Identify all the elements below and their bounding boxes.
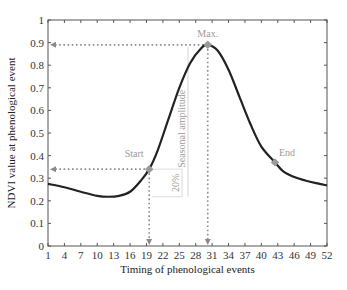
y-tick-label: 0.7 xyxy=(30,82,44,94)
x-tick-label: 34 xyxy=(223,249,235,261)
x-tick-label: 7 xyxy=(78,249,84,261)
arrow-down-icon xyxy=(146,239,152,245)
x-tick-label: 25 xyxy=(174,249,186,261)
x-axis-title: Timing of phenological events xyxy=(120,263,254,275)
y-tick-label: 0.3 xyxy=(30,172,44,184)
y-tick-label: 0 xyxy=(39,240,45,252)
x-tick-label: 22 xyxy=(157,249,168,261)
y-tick-label: 0.4 xyxy=(30,150,44,162)
y-axis-tick-labels: 00.10.20.30.40.50.60.70.80.91 xyxy=(30,14,44,252)
x-tick-label: 28 xyxy=(190,249,202,261)
arrow-down-icon xyxy=(205,239,211,245)
arrow-left-icon xyxy=(50,166,56,172)
y-tick-label: 0.9 xyxy=(30,37,44,49)
y-tick-label: 0.1 xyxy=(30,217,44,229)
point-label: Start xyxy=(125,148,144,159)
x-tick-label: 19 xyxy=(141,249,153,261)
y-tick-label: 1 xyxy=(39,14,45,26)
x-tick-label: 49 xyxy=(305,249,317,261)
x-axis-tick-labels: 147101316192225283134374043464952 xyxy=(45,249,332,261)
y-tick-label: 0.5 xyxy=(30,127,44,139)
x-tick-label: 52 xyxy=(322,249,333,261)
x-tick-label: 46 xyxy=(289,249,301,261)
x-tick-label: 4 xyxy=(62,249,68,261)
y-tick-label: 0.2 xyxy=(30,195,44,207)
x-tick-label: 1 xyxy=(45,249,51,261)
x-tick-label: 16 xyxy=(125,249,137,261)
x-tick-label: 37 xyxy=(239,249,251,261)
y-tick-label: 0.8 xyxy=(30,59,44,71)
seasonal-amplitude-label: Seasonal amplitude xyxy=(176,89,187,168)
x-tick-label: 31 xyxy=(207,249,218,261)
x-tick-label: 40 xyxy=(256,249,268,261)
y-tick-label: 0.6 xyxy=(30,104,44,116)
x-tick-label: 43 xyxy=(272,249,284,261)
phenology-points: StartMax.End xyxy=(125,28,295,174)
x-tick-label: 13 xyxy=(108,249,120,261)
point-label: Max. xyxy=(197,28,218,39)
x-tick-label: 10 xyxy=(92,249,104,261)
y-axis-title: NDVI value at phenological event xyxy=(5,58,17,209)
point-label: End xyxy=(279,147,295,158)
twenty-percent-label: 20% xyxy=(170,174,181,192)
ndvi-phenology-chart: 00.10.20.30.40.50.60.70.80.91 1471013161… xyxy=(0,0,347,290)
point-marker xyxy=(203,41,211,49)
